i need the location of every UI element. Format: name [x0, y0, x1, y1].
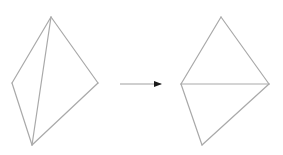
after-edge-bottom-right [202, 84, 269, 145]
after-edge-top-left [181, 17, 221, 84]
before-diagonal-edge [32, 17, 51, 145]
before-edge-right-top [51, 17, 98, 83]
before-edge-top-left [12, 17, 51, 83]
after-edge-right-top [221, 17, 269, 84]
after-edge-left-bottom [181, 84, 202, 145]
diagram-canvas [0, 0, 283, 155]
before-edge-bottom-right [32, 83, 98, 145]
before-edge-left-bottom [12, 83, 32, 145]
quad-after-flip [181, 17, 269, 145]
quad-before-flip [12, 17, 98, 145]
edge-flip-diagram [0, 0, 283, 155]
